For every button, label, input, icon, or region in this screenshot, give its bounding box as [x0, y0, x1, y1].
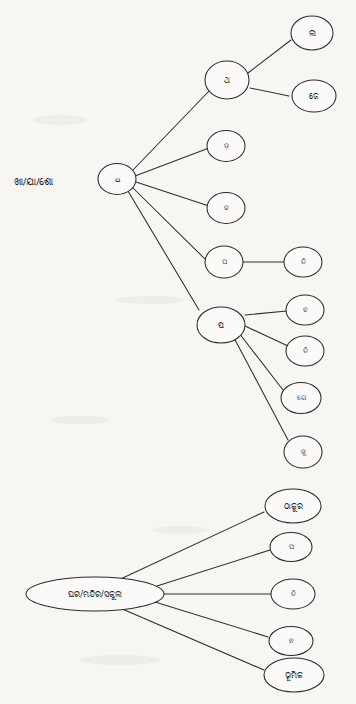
node-label-ge: ଗେ [297, 394, 307, 402]
node-label-pa: ପ [218, 321, 224, 330]
node-la[interactable]: ଲ [291, 16, 333, 50]
node-dda[interactable]: ଡ଼ [207, 131, 245, 162]
node-gha[interactable]: ଘ [205, 246, 243, 278]
graph-canvas: ଖା/ଯା/ଶୋ ଧ ଥ ଲ ଜେ ଡ଼ ଢ ଘ [0, 0, 356, 704]
node-tha[interactable]: ଥ [205, 61, 249, 99]
node-ju[interactable]: ଜୁ [284, 436, 322, 468]
node-label-tha: ଥ [224, 76, 230, 85]
node-ti-b[interactable]: ତି [286, 336, 324, 366]
node-label-thakura: ଠାକୁର [284, 502, 303, 512]
node-bhumika[interactable]: ଭୂମିକ [264, 658, 324, 692]
node-thakura[interactable]: ଠାକୁର [265, 489, 321, 523]
node-hub-lower[interactable]: ଘର/ମନ୍ଦିର/ସ୍କୁଲ [26, 577, 164, 611]
node-je[interactable]: ଜେ [292, 80, 336, 112]
node-ddha[interactable]: ଢ [207, 193, 245, 224]
node-label-ti-c: ତି [291, 590, 296, 598]
node-label-ddha: ଢ [224, 204, 229, 212]
node-ba[interactable]: ବ [286, 295, 324, 325]
node-pa[interactable]: ପ [197, 307, 245, 343]
node-na[interactable]: ନ [269, 627, 313, 656]
paper-texture-speck [116, 296, 184, 304]
root-caption-group: ଖା/ଯା/ଶୋ [14, 176, 53, 187]
node-ge[interactable]: ଗେ [281, 383, 321, 414]
node-label-ti-b: ତି [303, 347, 308, 355]
paper-texture-speck [50, 416, 110, 424]
node-label-ti-a: ତି [301, 258, 306, 266]
node-label-ba: ବ [303, 306, 308, 314]
paper-texture-speck [152, 526, 208, 534]
node-ti-c[interactable]: ତି [271, 579, 315, 609]
node-label-hub-lower: ଘର/ମନ୍ଦିର/ସ୍କୁଲ [68, 590, 121, 600]
node-gha2[interactable]: ଘ [270, 533, 312, 562]
node-label-je: ଜେ [309, 92, 319, 101]
node-label-la: ଲ [309, 29, 316, 38]
node-hub-upper[interactable]: ଧ [98, 164, 136, 195]
paper-texture-speck [80, 655, 160, 665]
paper-texture-speck [34, 115, 86, 125]
diagram-root: ଖା/ଯା/ଶୋ ଧ ଥ ଲ ଜେ ଡ଼ ଢ ଘ [0, 0, 356, 704]
node-ti-a[interactable]: ତି [284, 247, 322, 277]
node-label-na: ନ [289, 637, 294, 645]
node-label-dda: ଡ଼ [224, 142, 229, 150]
root-caption-label: ଖା/ଯା/ଶୋ [14, 176, 53, 187]
